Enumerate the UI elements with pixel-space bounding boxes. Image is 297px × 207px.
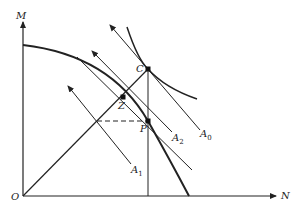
a1-label: A1 xyxy=(131,165,143,178)
diagram-canvas xyxy=(0,0,297,207)
point-z xyxy=(121,95,126,100)
origin-label: O xyxy=(11,192,19,202)
point-c-label: C xyxy=(136,64,144,74)
point-z-label: Z xyxy=(118,101,125,111)
point-c xyxy=(146,67,151,72)
line-a2 xyxy=(92,51,172,132)
a2-sub: 2 xyxy=(179,138,183,146)
a2-label: A2 xyxy=(172,133,184,146)
x-axis-label: N xyxy=(281,191,290,201)
tangent-line xyxy=(77,57,192,170)
point-p-label: P xyxy=(140,124,147,134)
a1-sub: 1 xyxy=(138,170,142,178)
a0-label: A0 xyxy=(200,129,212,142)
y-axis-label: M xyxy=(16,11,26,21)
a0-sub: 0 xyxy=(207,134,211,142)
